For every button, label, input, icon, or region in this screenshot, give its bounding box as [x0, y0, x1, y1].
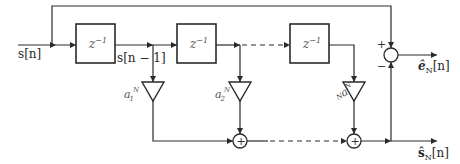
adder2-top-arrow	[351, 128, 357, 134]
input-arrow	[50, 42, 56, 48]
summer-plus-sign: +	[377, 38, 386, 51]
adder-2-symbol: +	[351, 135, 360, 148]
box3-input-arrow	[284, 42, 290, 48]
linear-predictor-diagram: z−1 s[n − 1] z−1 z−1 a1N a2N NaN + + ŝN[…	[0, 0, 460, 164]
summer-minus-sign: −	[377, 60, 386, 73]
estimate-output-arrow	[431, 138, 437, 144]
gain-triangle-2	[229, 82, 251, 101]
tap3-down-arrow	[351, 76, 357, 82]
adder1-left-arrow	[227, 138, 233, 144]
junction-arrow	[385, 138, 391, 144]
tap2-arrow	[234, 42, 240, 48]
summer-minus-arrow	[388, 62, 394, 68]
tap1-to-adder-wire	[153, 101, 233, 141]
wire-box3-tap3	[329, 45, 354, 82]
error-output-label: êN[n]	[418, 59, 450, 75]
estimate-output-label: ŝN[n]	[418, 146, 449, 162]
tap-label-s-n-1: s[n − 1]	[117, 51, 166, 65]
coefficient-a1: a1N	[124, 86, 140, 103]
error-output-arrow	[431, 52, 437, 58]
tap1-arrow	[147, 42, 153, 48]
adder2-left-arrow	[341, 138, 347, 144]
adder1-top-arrow	[237, 128, 243, 134]
box1-input-arrow	[70, 42, 76, 48]
tap2-down-arrow	[237, 76, 243, 82]
coefficient-a2: a2N	[215, 86, 231, 103]
adder-1-symbol: +	[237, 135, 246, 148]
input-label: s[n]	[18, 47, 41, 61]
tap1-down-arrow	[150, 76, 156, 82]
summer-plus-arrow	[388, 42, 394, 48]
box2-input-arrow	[171, 42, 177, 48]
gain-triangle-1	[142, 82, 164, 101]
